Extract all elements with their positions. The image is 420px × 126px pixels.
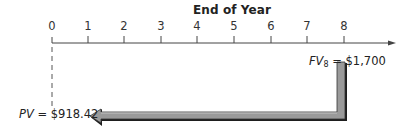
fv-symbol: FV: [309, 54, 323, 68]
future-value-label: FV8 = $1,700: [309, 54, 386, 69]
fv-equals: =: [332, 54, 342, 68]
axis-arrowhead-icon: [388, 41, 396, 46]
pv-amount: $918.42: [51, 107, 99, 121]
discount-arrow-icon: [90, 62, 345, 123]
fv-subscript: 8: [323, 60, 328, 69]
pv-equals: =: [37, 107, 47, 121]
pv-symbol: PV: [19, 107, 34, 121]
fv-amount: $1,700: [346, 54, 386, 68]
axis-ticks: [52, 36, 344, 43]
present-value-label: PV = $918.42: [19, 107, 98, 121]
